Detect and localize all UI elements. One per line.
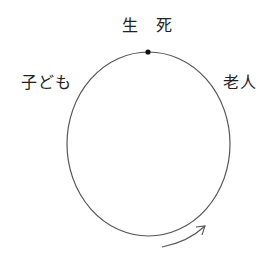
label-child: 子ども xyxy=(21,75,72,91)
label-birth-death: 生 死 xyxy=(122,18,173,34)
label-elderly: 老人 xyxy=(223,75,257,91)
birth-death-point xyxy=(145,49,150,54)
life-cycle-diagram xyxy=(0,0,273,259)
life-cycle-ellipse xyxy=(67,52,230,236)
direction-arrow-icon xyxy=(162,226,205,247)
